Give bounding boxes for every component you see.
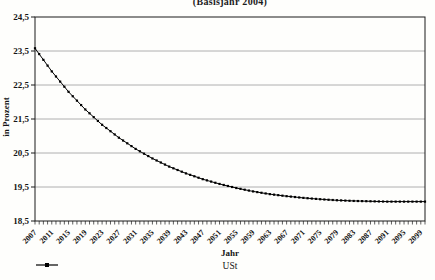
- x-tick-label: 2059: [239, 228, 257, 246]
- series-marker: [265, 192, 267, 194]
- series-marker: [80, 104, 82, 106]
- series-marker: [395, 201, 397, 203]
- series-marker: [336, 199, 338, 201]
- series-marker: [185, 172, 187, 174]
- series-marker: [46, 65, 48, 67]
- series-marker: [97, 120, 99, 122]
- series-marker: [306, 197, 308, 199]
- series-marker: [260, 192, 262, 194]
- x-tick-label: 2039: [155, 228, 173, 246]
- series-marker: [365, 200, 367, 202]
- series-marker: [244, 189, 246, 191]
- series-marker: [277, 194, 279, 196]
- series-marker: [172, 167, 174, 169]
- series-marker: [227, 185, 229, 187]
- series-marker: [126, 142, 128, 144]
- series-marker: [348, 200, 350, 202]
- series-marker: [319, 198, 321, 200]
- series-marker: [218, 183, 220, 185]
- series-marker: [239, 188, 241, 190]
- series-marker: [256, 191, 258, 193]
- series-marker: [93, 116, 95, 118]
- series-marker: [252, 190, 254, 192]
- series-marker: [130, 145, 132, 147]
- x-tick-label: 2055: [222, 228, 240, 246]
- x-axis-title: Jahr: [35, 248, 425, 258]
- series-marker: [147, 155, 149, 157]
- series-marker: [357, 200, 359, 202]
- series-marker: [223, 184, 225, 186]
- series-marker: [59, 81, 61, 83]
- series-marker: [235, 187, 237, 189]
- series-marker: [105, 127, 107, 129]
- series-marker: [55, 75, 57, 77]
- x-tick-label: 2091: [373, 228, 391, 246]
- series-marker: [353, 200, 355, 202]
- series-marker: [294, 196, 296, 198]
- series-marker: [160, 161, 162, 163]
- series-marker: [164, 163, 166, 165]
- series-marker: [176, 169, 178, 171]
- x-tick-label: 2063: [256, 228, 274, 246]
- series-marker: [323, 198, 325, 200]
- series-marker: [340, 199, 342, 201]
- series-marker: [168, 166, 170, 168]
- series-marker: [269, 193, 271, 195]
- x-tick-label: 2099: [407, 228, 425, 246]
- series-marker: [135, 148, 137, 150]
- series-marker: [332, 199, 334, 201]
- series-marker: [197, 177, 199, 179]
- y-tick-label: 20,5: [13, 148, 29, 158]
- series-marker: [411, 201, 413, 203]
- series-marker: [156, 159, 158, 161]
- x-tick-label: 2047: [188, 228, 206, 246]
- series-marker: [369, 200, 371, 202]
- series-marker: [193, 175, 195, 177]
- series-marker: [210, 180, 212, 182]
- series-marker: [143, 153, 145, 155]
- series-marker: [181, 171, 183, 173]
- x-tick-label: 2071: [289, 228, 307, 246]
- series-marker: [38, 53, 40, 55]
- series-marker: [231, 186, 233, 188]
- x-tick-label: 2019: [71, 228, 89, 246]
- legend-marker: [35, 261, 59, 269]
- legend-series-label: USt: [223, 261, 238, 271]
- series-marker: [361, 200, 363, 202]
- series-marker: [315, 198, 317, 200]
- chart-figure: (Basisjahr 2004) 24,523,522,521,520,519,…: [0, 0, 435, 280]
- series-marker: [420, 201, 422, 203]
- x-tick-label: 2007: [21, 228, 39, 246]
- series-marker: [206, 179, 208, 181]
- y-tick-label: 22,5: [13, 80, 29, 90]
- x-tick-label: 2079: [323, 228, 341, 246]
- series-marker: [403, 201, 405, 203]
- series-marker: [302, 197, 304, 199]
- x-tick-label: 2095: [390, 228, 408, 246]
- x-tick-label: 2031: [121, 228, 139, 246]
- x-tick-label: 2027: [105, 228, 123, 246]
- series-marker: [42, 59, 44, 61]
- series-marker: [298, 196, 300, 198]
- series-marker: [109, 130, 111, 132]
- series-marker: [416, 201, 418, 203]
- x-tick-label: 2067: [272, 228, 290, 246]
- series-marker: [424, 201, 426, 203]
- legend: USt: [35, 261, 425, 271]
- series-marker: [327, 199, 329, 201]
- series-marker: [390, 201, 392, 203]
- series-marker: [189, 174, 191, 176]
- series-marker: [382, 200, 384, 202]
- series-marker: [34, 47, 36, 49]
- x-tick-label: 2087: [356, 228, 374, 246]
- x-tick-label: 2011: [38, 228, 55, 245]
- series-marker: [286, 195, 288, 197]
- series-marker: [378, 200, 380, 202]
- series-marker: [273, 194, 275, 196]
- x-tick-label: 2075: [306, 228, 324, 246]
- y-tick-label: 24,5: [13, 12, 29, 22]
- line-chart: 24,523,522,521,520,519,518,5200720112015…: [0, 0, 435, 280]
- series-marker: [63, 86, 65, 88]
- x-tick-label: 2051: [205, 228, 223, 246]
- series-marker: [122, 139, 124, 141]
